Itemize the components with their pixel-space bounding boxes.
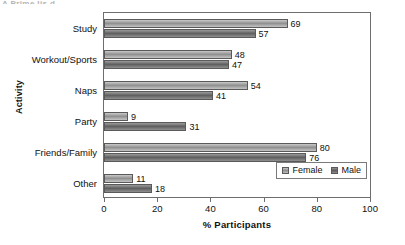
x-axis-tick-label: 40: [190, 203, 230, 214]
bar-value-label: 69: [288, 19, 301, 29]
x-axis-tick-label: 60: [244, 203, 284, 214]
y-axis-tick-label: Naps: [9, 84, 97, 95]
x-axis-tick: [317, 198, 318, 202]
x-axis-title: % Participants: [103, 219, 371, 230]
x-axis-tick-label: 80: [297, 203, 337, 214]
y-axis-tick-label: Friends/Family: [9, 146, 97, 157]
y-axis-tick-label: Workout/Sports: [9, 53, 97, 64]
clipped-title-remnant: A Prime lis d: [2, 0, 152, 4]
y-axis-tick-label: Study: [9, 22, 97, 33]
y-axis-tick-label: Party: [9, 115, 97, 126]
legend-entry-female: Female: [282, 165, 322, 175]
x-axis-tick-label: 100: [350, 203, 390, 214]
legend-entry-male: Male: [331, 165, 361, 175]
y-axis-tick-labels: StudyWorkout/SportsNapsPartyFriends/Fami…: [12, 12, 100, 198]
chart-legend: Female Male: [276, 162, 367, 179]
legend-label-female: Female: [292, 165, 322, 175]
bar-male: [104, 91, 213, 100]
bar-female: [104, 112, 128, 121]
bar-value-label: 47: [229, 60, 242, 70]
bar-male: [104, 122, 186, 131]
bar-female: [104, 143, 317, 152]
x-axis-tick: [210, 198, 211, 202]
bar-value-label: 31: [186, 122, 199, 132]
x-axis-tick-label: 0: [84, 203, 124, 214]
bar-female: [104, 81, 248, 90]
bar-value-label: 76: [306, 153, 319, 163]
x-axis-tick: [157, 198, 158, 202]
bar-female: [104, 50, 232, 59]
female-swatch-icon: [282, 167, 289, 174]
x-axis-tick: [264, 198, 265, 202]
bar-value-label: 80: [317, 143, 330, 153]
bar-value-label: 41: [213, 91, 226, 101]
bar-value-label: 57: [256, 29, 269, 39]
bar-male: [104, 184, 152, 193]
x-axis-tick: [370, 198, 371, 202]
x-axis-tick: [104, 198, 105, 202]
plot-area: 69574847544193180761118 Female Male: [103, 12, 371, 198]
bar-value-label: 18: [152, 184, 165, 194]
bar-value-label: 11: [133, 174, 145, 184]
bar-chart-figure: A Prime lis d Activity StudyWorkout/Spor…: [0, 0, 405, 245]
bar-female: [104, 19, 288, 28]
male-swatch-icon: [331, 167, 338, 174]
legend-label-male: Male: [341, 165, 361, 175]
bar-male: [104, 29, 256, 38]
bar-value-label: 9: [128, 112, 136, 122]
bar-value-label: 48: [232, 50, 245, 60]
bar-male: [104, 153, 306, 162]
y-axis-tick-label: Other: [9, 177, 97, 188]
x-axis-tick-label: 20: [137, 203, 177, 214]
bar-male: [104, 60, 229, 69]
bar-value-label: 54: [248, 81, 261, 91]
bar-female: [104, 174, 133, 183]
